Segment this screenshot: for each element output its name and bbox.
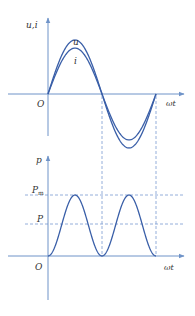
voltage-label: u (73, 37, 79, 47)
bottom-y-axis-label: p (36, 155, 42, 165)
bottom-plot: p Pm P O ωt (8, 155, 184, 300)
pm-label-subscript: m (38, 189, 44, 196)
bottom-x-axis-label: ωt (164, 263, 175, 272)
pm-label: Pm (31, 185, 44, 196)
top-x-axis-label: ωt (166, 99, 177, 108)
top-plot: u,i u i O ωt (8, 18, 184, 148)
current-label: i (74, 56, 77, 66)
p-average-label: P (36, 214, 44, 224)
bottom-origin-label: O (35, 262, 43, 272)
top-y-axis-label: u,i (26, 20, 38, 30)
figure: u,i u i O ωt p Pm P O ωt (0, 0, 195, 316)
top-origin-label: O (37, 99, 45, 109)
